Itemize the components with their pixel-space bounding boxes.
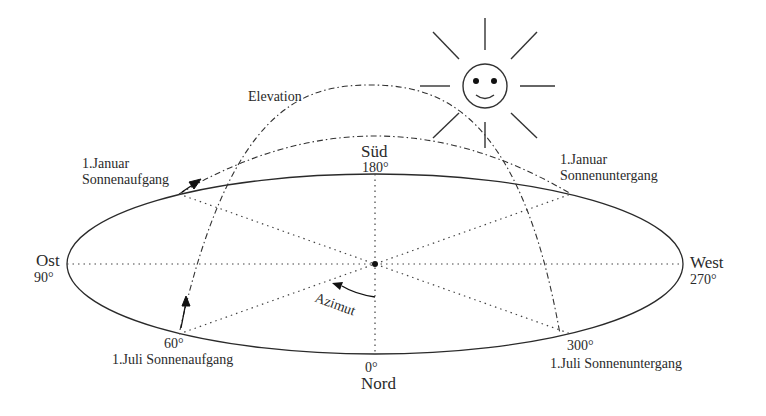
east-label: Ost [36,252,60,270]
jul-sunset-label: 1.Juli Sonnenuntergang [550,356,682,372]
azimut-arrow-icon [332,282,375,297]
jul-sunrise-degree: 60° [164,336,184,352]
sun-smiley-icon [420,18,555,148]
arrow-icon [181,179,201,328]
west-degree: 270° [690,272,717,288]
jul-sunrise-label: 1.Juli Sonnenaufgang [112,352,233,368]
south-degree: 180° [362,160,389,176]
observer-point [372,261,378,267]
east-degree: 90° [34,270,54,286]
jan-sunset-label-line2: Sonnenuntergang [560,168,658,184]
jul-sunset-degree: 300° [567,338,594,354]
elevation-label: Elevation [248,89,302,105]
jan-sunrise-label-line2: Sonnenaufgang [82,172,169,188]
south-label: Süd [361,143,387,161]
jan-sunset-label-line1: 1.Januar [560,152,607,168]
west-label: West [690,254,724,272]
north-label: Nord [361,375,396,393]
jan-sunrise-label-line1: 1.Januar [82,156,129,172]
